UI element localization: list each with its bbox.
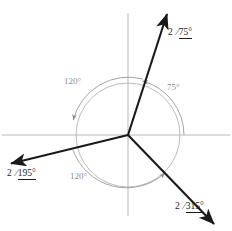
arc-120-lower [73,150,165,188]
phasor-75-angle: 75° [179,28,192,39]
phasor-195-line [11,135,128,164]
phasor-315-angle: 315° [186,202,204,213]
angle-symbol-icon: /75° [175,27,192,39]
phasor-195-magnitude: 2 [7,168,12,178]
phasor-diagram: 2 /75° 2 /195° 2 /315° 75° 120° 120° [0,0,232,231]
arc-120-upper-label: 120° [64,76,81,86]
phasor-315-magnitude: 2 [175,201,180,211]
arc-75-label: 75° [167,82,180,92]
angle-symbol-icon: /195° [14,168,36,180]
phasor-75-label: 2 /75° [168,27,192,39]
phasor-195-label: 2 /195° [7,168,36,180]
phasor-195-angle: 195° [18,169,36,180]
phasor-75-line [128,14,167,135]
angle-symbol-icon: /315° [182,201,204,213]
phasor-75-magnitude: 2 [168,27,173,37]
diagram-canvas [0,0,232,231]
phasor-315-label: 2 /315° [175,201,204,213]
arc-120-lower-label: 120° [70,171,87,181]
